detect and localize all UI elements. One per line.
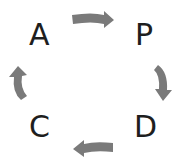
- arrow-right-icon: [72, 11, 114, 28]
- arrow-left-icon: [73, 140, 113, 157]
- arrow-down-icon: [154, 65, 172, 101]
- cycle-arrows: [0, 0, 181, 166]
- arrow-up-icon: [9, 66, 27, 100]
- pdca-diagram: A P C D: [0, 0, 181, 166]
